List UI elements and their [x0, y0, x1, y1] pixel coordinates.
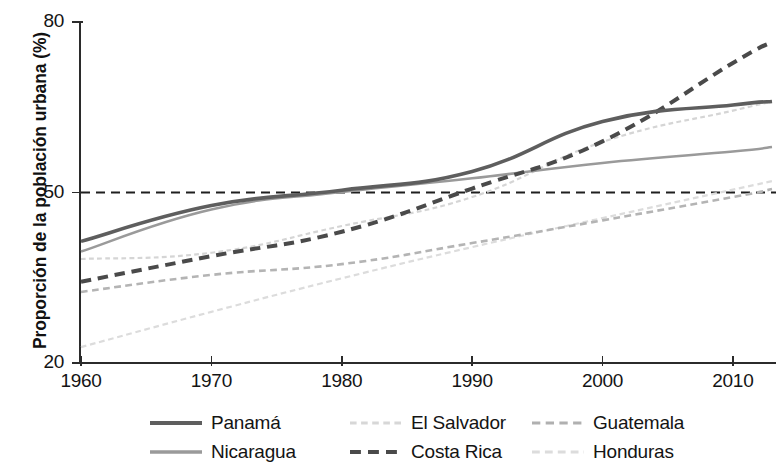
urbanization-line-chart: Proporción de la población urbana (%) 80… [0, 0, 778, 468]
legend-item-nicaragua[interactable]: Nicaragua [150, 441, 350, 463]
legend-swatch-solid-line-icon [150, 445, 202, 459]
legend-item-honduras[interactable]: Honduras [532, 441, 732, 463]
legend-label: Panamá [211, 412, 281, 434]
legend-label: Costa Rica [411, 441, 502, 463]
legend-swatch-dashed-line-icon [532, 416, 584, 430]
series-line-panam- [81, 102, 772, 242]
legend-swatch-dotted-line-icon [350, 416, 402, 430]
legend-label: Nicaragua [211, 441, 296, 463]
series-line-nicaragua [81, 147, 772, 252]
legend: PanamáEl SalvadorGuatemalaNicaraguaCosta… [150, 408, 770, 466]
legend-label: El Salvador [411, 412, 506, 434]
plot-area [0, 0, 778, 468]
series-line-costa-rica [81, 42, 772, 282]
legend-item-costa-rica[interactable]: Costa Rica [350, 441, 532, 463]
legend-item-guatemala[interactable]: Guatemala [532, 412, 732, 434]
legend-item-panam-[interactable]: Panamá [150, 412, 350, 434]
legend-item-el-salvador[interactable]: El Salvador [350, 412, 532, 434]
legend-label: Honduras [593, 441, 674, 463]
legend-swatch-dashed-line-icon [350, 445, 402, 459]
legend-swatch-dashed-line-icon [532, 445, 584, 459]
legend-label: Guatemala [593, 412, 684, 434]
legend-swatch-solid-line-icon [150, 416, 202, 430]
